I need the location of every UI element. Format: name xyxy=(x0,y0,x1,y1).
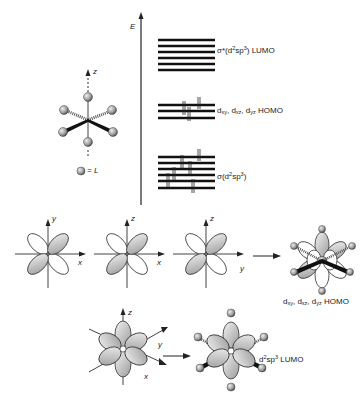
sigma-levels xyxy=(158,157,215,188)
dyz-axis-h: y xyxy=(240,264,244,273)
homo-levels xyxy=(158,105,215,118)
z-axis-label: z xyxy=(93,67,97,76)
homo-label: dxy, dxz, dyz HOMO xyxy=(217,106,283,115)
dxz-axis-h: x xyxy=(157,258,161,267)
energy-axis-label: E xyxy=(130,22,135,31)
orbital-dxy xyxy=(13,218,83,288)
lumo-levels xyxy=(158,40,215,70)
row2-axis-x: x xyxy=(144,372,148,381)
row2-axis-y: y xyxy=(158,340,162,349)
sigma-electrons xyxy=(167,149,200,193)
dxy-axis-h: x xyxy=(78,258,82,267)
dxy-axis-v: y xyxy=(52,214,56,223)
lumo-label: σ*(d2sp3) LUMO xyxy=(217,45,275,55)
ligand-legend: = L xyxy=(87,166,98,175)
lumo-hybrid-complex xyxy=(191,300,271,390)
lumo-caption: d2sp3 LUMO xyxy=(259,354,303,364)
orbital-dyz xyxy=(171,218,241,288)
dyz-axis-v: z xyxy=(210,214,214,223)
homo-combined-orbital xyxy=(282,223,362,298)
arrow-right-icon xyxy=(253,251,283,261)
dxz-axis-v: z xyxy=(131,214,135,223)
homo-caption: dxy, dxz, dyz HOMO xyxy=(283,297,349,306)
sigma-label: σ(d2sp3) xyxy=(217,171,246,181)
arrow-right-icon xyxy=(163,351,193,361)
row2-axis-z: z xyxy=(128,308,132,317)
orbital-dxz xyxy=(92,218,162,288)
energy-axis xyxy=(137,10,147,205)
octahedral-complex-diagram xyxy=(0,0,120,190)
